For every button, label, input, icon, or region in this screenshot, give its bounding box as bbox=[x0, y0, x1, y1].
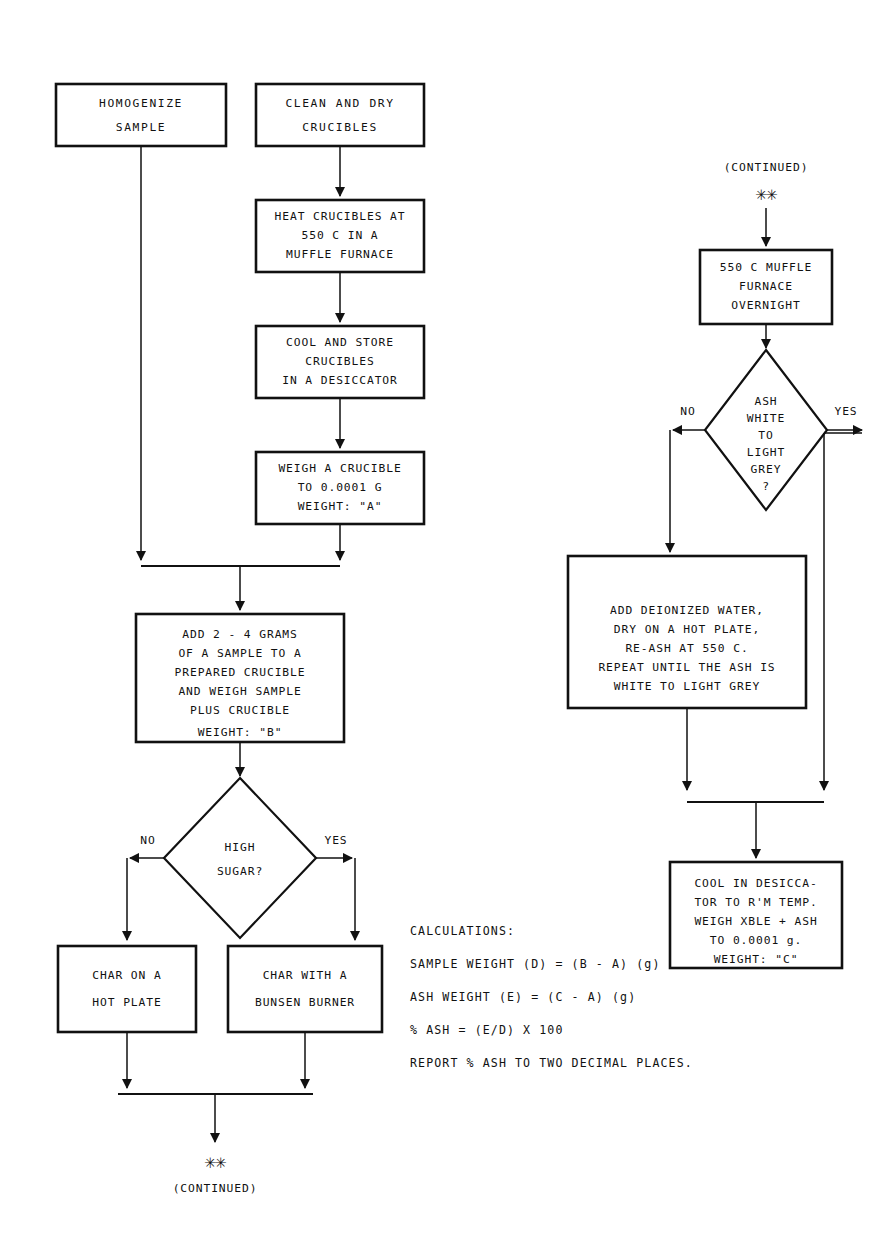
node-deionized-line-4: WHITE TO LIGHT GREY bbox=[614, 680, 760, 693]
node-clean-dry-crucibles-line-0: CLEAN AND DRY bbox=[285, 97, 394, 110]
label-ash-yes: YES bbox=[834, 405, 857, 418]
label-ash-no: NO bbox=[680, 405, 695, 418]
node-continued-top: (CONTINUED) ✳✳ bbox=[724, 161, 809, 204]
node-muffle-overnight[interactable]: 550 C MUFFLE FURNACE OVERNIGHT bbox=[700, 250, 832, 324]
node-continued-bottom: ✳✳ (CONTINUED) bbox=[173, 1150, 258, 1195]
node-clean-dry-crucibles-line-2: CRUCIBLES bbox=[302, 121, 378, 134]
node-deionized-line-2: RE-ASH AT 550 C. bbox=[625, 642, 748, 655]
node-ash-line-3: LIGHT bbox=[747, 446, 786, 459]
node-cool-store-line-2: IN A DESICCATOR bbox=[282, 374, 398, 387]
calculations-line-0: SAMPLE WEIGHT (D) = (B - A) (g) bbox=[410, 957, 660, 971]
node-homogenize-sample[interactable]: HOMOGENIZE SAMPLE bbox=[56, 84, 226, 146]
node-high-sugar-line-0: HIGH bbox=[225, 841, 256, 854]
label-high-sugar-yes: YES bbox=[324, 834, 347, 847]
node-char-bunsen-line-2: BUNSEN BURNER bbox=[255, 996, 355, 1009]
calculations-line-1: ASH WEIGHT (E) = (C - A) (g) bbox=[410, 990, 636, 1004]
node-add-sample-line-2: PREPARED CRUCIBLE bbox=[175, 666, 306, 679]
continued-top-marker: ✳✳ bbox=[756, 182, 777, 204]
node-high-sugar-line-1: SUGAR? bbox=[217, 865, 263, 878]
flowchart-canvas: HOMOGENIZE SAMPLE CLEAN AND DRY CRUCIBLE… bbox=[0, 0, 886, 1245]
node-cool-desiccator-line-0: COOL IN DESICCA- bbox=[694, 877, 817, 890]
node-cool-desiccator-line-2: WEIGH XBLE + ASH bbox=[694, 915, 817, 928]
node-char-hot-plate-line-2: HOT PLATE bbox=[92, 996, 161, 1009]
node-ash-line-5: ? bbox=[762, 480, 770, 493]
node-cool-desiccator-line-4: WEIGHT: "C" bbox=[714, 953, 799, 966]
node-heat-crucibles-line-0: HEAT CRUCIBLES AT bbox=[275, 210, 406, 223]
node-cool-in-desiccator[interactable]: COOL IN DESICCA- TOR TO R'M TEMP. WEIGH … bbox=[670, 862, 842, 968]
node-char-hot-plate[interactable]: CHAR ON A HOT PLATE bbox=[58, 946, 196, 1032]
node-cool-store-crucibles[interactable]: COOL AND STORE CRUCIBLES IN A DESICCATOR bbox=[256, 326, 424, 398]
continued-top-label: (CONTINUED) bbox=[724, 161, 809, 174]
node-homogenize-sample-line-0: HOMOGENIZE bbox=[99, 97, 183, 110]
label-high-sugar-no: NO bbox=[140, 834, 155, 847]
node-heat-crucibles[interactable]: HEAT CRUCIBLES AT 550 C IN A MUFFLE FURN… bbox=[256, 200, 424, 272]
node-muffle-line-0: 550 C MUFFLE bbox=[720, 261, 812, 274]
node-clean-dry-crucibles[interactable]: CLEAN AND DRY CRUCIBLES bbox=[256, 84, 424, 146]
node-add-sample-line-3: AND WEIGH SAMPLE bbox=[178, 685, 301, 698]
node-char-bunsen-line-0: CHAR WITH A bbox=[263, 969, 348, 982]
node-cool-store-line-0: COOL AND STORE bbox=[286, 336, 394, 349]
node-weigh-crucible-line-1: TO 0.0001 G bbox=[298, 481, 383, 494]
node-high-sugar-decision[interactable]: HIGH SUGAR? bbox=[164, 778, 316, 938]
node-add-deionized-water[interactable]: ADD DEIONIZED WATER, DRY ON A HOT PLATE,… bbox=[568, 556, 806, 708]
node-add-sample-line-1: OF A SAMPLE TO A bbox=[178, 647, 301, 660]
node-ash-line-2: TO bbox=[758, 429, 773, 442]
node-cool-desiccator-line-1: TOR TO R'M TEMP. bbox=[694, 896, 817, 909]
node-homogenize-sample-line-2: SAMPLE bbox=[116, 121, 166, 134]
calculations-heading: CALCULATIONS: bbox=[410, 924, 515, 938]
node-char-bunsen[interactable]: CHAR WITH A BUNSEN BURNER bbox=[228, 946, 382, 1032]
continued-bottom-marker: ✳✳ bbox=[205, 1150, 226, 1172]
node-cool-desiccator-line-3: TO 0.0001 g. bbox=[710, 934, 802, 947]
node-ash-line-4: GREY bbox=[751, 463, 782, 476]
node-add-sample-line-6: WEIGHT: "B" bbox=[198, 726, 283, 739]
node-char-hot-plate-line-0: CHAR ON A bbox=[92, 969, 161, 982]
continued-bottom-label: (CONTINUED) bbox=[173, 1182, 258, 1195]
node-ash-white-decision[interactable]: ASH WHITE TO LIGHT GREY ? bbox=[705, 350, 827, 510]
node-deionized-line-1: DRY ON A HOT PLATE, bbox=[614, 623, 760, 636]
node-deionized-line-0: ADD DEIONIZED WATER, bbox=[610, 604, 764, 617]
node-weigh-crucible-line-2: WEIGHT: "A" bbox=[298, 500, 383, 513]
node-add-sample-line-4: PLUS CRUCIBLE bbox=[190, 704, 290, 717]
node-add-sample[interactable]: ADD 2 - 4 GRAMS OF A SAMPLE TO A PREPARE… bbox=[136, 614, 344, 742]
node-heat-crucibles-line-1: 550 C IN A bbox=[301, 229, 378, 242]
node-deionized-line-3: REPEAT UNTIL THE ASH IS bbox=[598, 661, 775, 674]
node-ash-line-0: ASH bbox=[754, 395, 777, 408]
node-heat-crucibles-line-2: MUFFLE FURNACE bbox=[286, 248, 394, 261]
node-weigh-crucible-line-0: WEIGH A CRUCIBLE bbox=[278, 462, 401, 475]
node-add-sample-line-0: ADD 2 - 4 GRAMS bbox=[182, 628, 298, 641]
node-muffle-line-1: FURNACE bbox=[739, 280, 793, 293]
node-cool-store-line-1: CRUCIBLES bbox=[305, 355, 374, 368]
node-weigh-crucible[interactable]: WEIGH A CRUCIBLE TO 0.0001 G WEIGHT: "A" bbox=[256, 452, 424, 524]
calculations-line-2: % ASH = (E/D) X 100 bbox=[410, 1023, 564, 1037]
calculations-block: CALCULATIONS: SAMPLE WEIGHT (D) = (B - A… bbox=[410, 924, 693, 1070]
node-muffle-line-2: OVERNIGHT bbox=[731, 299, 800, 312]
calculations-line-3: REPORT % ASH TO TWO DECIMAL PLACES. bbox=[410, 1056, 693, 1070]
node-ash-line-1: WHITE bbox=[747, 412, 786, 425]
